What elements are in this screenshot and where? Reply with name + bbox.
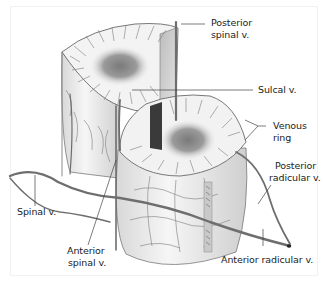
label-line: radicular v. xyxy=(269,172,321,184)
label-line: Sulcal v. xyxy=(258,84,296,96)
label-line: Anterior xyxy=(67,245,106,257)
label-anterior-radicular-v: Anterior radicular v. xyxy=(221,254,313,266)
label-line: ring xyxy=(273,132,307,144)
label-line: spinal v. xyxy=(211,29,252,41)
label-line: spinal v. xyxy=(67,257,106,269)
label-posterior-spinal-v: Posterior spinal v. xyxy=(211,17,252,40)
label-anterior-spinal-v: Anterior spinal v. xyxy=(67,245,106,268)
label-line: Posterior xyxy=(269,160,321,172)
label-line: Posterior xyxy=(211,17,252,29)
label-line: Spinal v. xyxy=(17,206,56,218)
label-line: Anterior radicular v. xyxy=(221,254,313,266)
label-sulcal-v: Sulcal v. xyxy=(258,84,296,96)
lower-cord-segment xyxy=(116,95,247,265)
label-spinal-v: Spinal v. xyxy=(17,206,56,218)
label-line: Venous xyxy=(273,120,307,132)
anterior-radicular-v-end xyxy=(287,244,291,248)
label-venous-ring: Venous ring xyxy=(273,120,307,143)
label-posterior-radicular-v: Posterior radicular v. xyxy=(269,160,321,183)
